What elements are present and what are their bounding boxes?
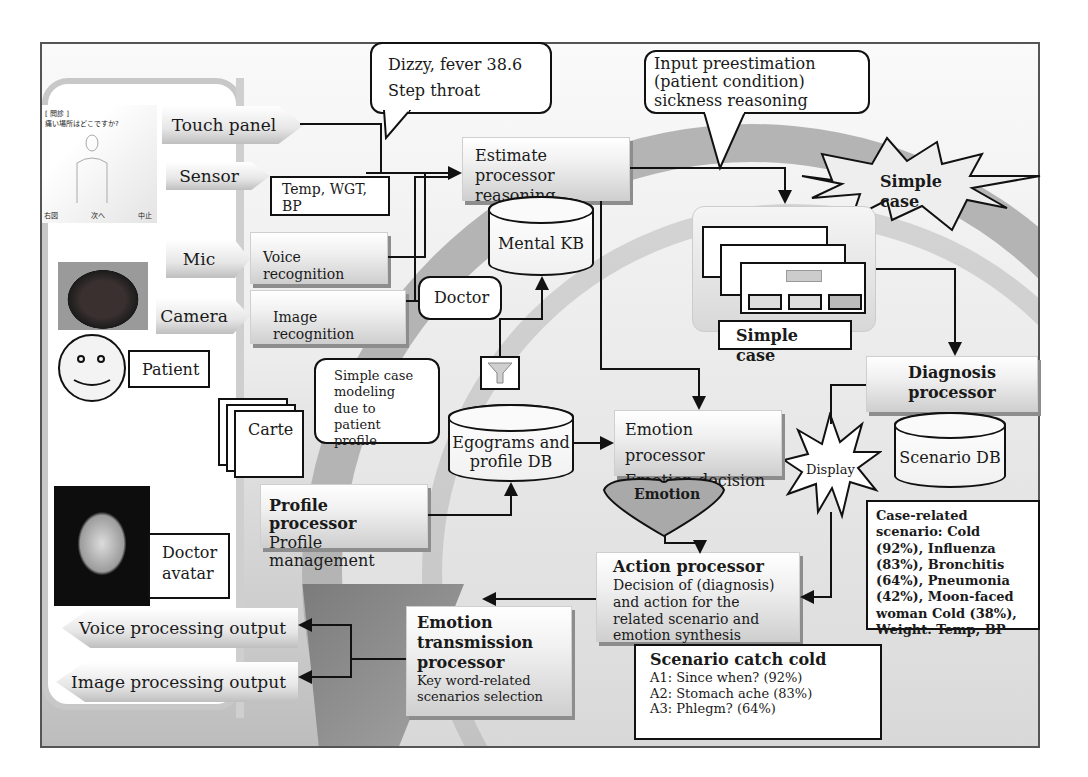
carte-label: Carte (234, 410, 304, 478)
arrow-head (600, 436, 614, 450)
mental-kb-database: Mental KB (488, 196, 594, 276)
connector (499, 318, 543, 320)
connector (380, 123, 382, 173)
scenario-item: A2: Stomach ache (83%) (650, 686, 866, 702)
connector (496, 598, 596, 600)
connector (876, 268, 956, 270)
funnel-icon (487, 361, 513, 385)
profile-processor: Profile processor Profile management (260, 484, 428, 548)
egograms-profile-database: Egograms and profile DB (448, 404, 574, 482)
arrow-head (298, 670, 312, 684)
connector (600, 201, 602, 369)
smiley-face-icon (56, 332, 128, 404)
connector (352, 658, 406, 660)
arrow-head (800, 590, 814, 604)
scenario-db-database: Scenario DB (894, 412, 1006, 488)
arrow-head (535, 276, 549, 290)
diagnosis-processor: Diagnosis processor (866, 356, 1038, 412)
arrow-head (298, 618, 312, 632)
connector (830, 512, 832, 598)
patient-photo (58, 262, 148, 330)
emotion-heart-label: Emotion (634, 486, 700, 503)
connector (312, 676, 352, 678)
arrow-head (692, 396, 706, 410)
voice-processing-output: Voice processing output (62, 608, 298, 648)
simple-case-label: Simple case (718, 320, 852, 350)
patient-label: Patient (128, 350, 210, 388)
sensor-readings-box: Temp, WGT, BP (270, 176, 390, 216)
touch-screen-question: 痛い場所はどこですか? (45, 118, 154, 128)
connector (428, 514, 512, 516)
symptom-bubble-tail (380, 110, 420, 140)
connector (574, 442, 602, 444)
arrow-head (778, 190, 792, 204)
touch-screen-button[interactable]: 右図 (44, 210, 58, 220)
emotion-processor: Emotion processor Emotion decision (614, 410, 782, 476)
connector (499, 318, 501, 358)
connector (784, 167, 786, 191)
preestimation-bubble-tail (700, 112, 770, 172)
doctor-avatar-photo (54, 486, 150, 606)
connector (312, 624, 352, 626)
doctor-bubble: Doctor (418, 276, 502, 320)
image-recognition: Image recognition (250, 290, 406, 344)
scenario-item: A1: Since when? (92%) (650, 670, 866, 686)
body-outline-icon (67, 133, 117, 203)
modeling-bubble: Simple case modeling due to patient prof… (314, 358, 440, 444)
action-processor: Action processor Decision of (diagnosis)… (596, 552, 800, 642)
case-card (740, 262, 866, 314)
estimate-processor: Estimate processor reasoning (462, 137, 630, 201)
connector (366, 172, 450, 174)
emotion-heart-icon (600, 474, 728, 540)
connector (350, 624, 352, 678)
case-related-scenario-box: Case-related scenario: Cold (92%), Influ… (866, 500, 1040, 630)
touch-screen-button[interactable]: 次へ (91, 210, 105, 220)
connector (414, 176, 450, 178)
scenario-catch-cold-box: Scenario catch cold A1: Since when? (92%… (634, 644, 882, 740)
connector (541, 290, 543, 320)
arrow-head (693, 540, 707, 554)
simple-case-burst-label: Simple case (880, 172, 950, 212)
connector (830, 384, 832, 424)
camera-input: Camera (156, 298, 250, 334)
doctor-avatar-label: Doctor avatar (148, 533, 230, 599)
connector (414, 176, 416, 302)
connector (698, 368, 700, 396)
connector (424, 172, 426, 258)
touch-screen-header: [ 問診 ] (45, 108, 154, 118)
image-processing-output: Image processing output (56, 662, 298, 702)
connector (630, 167, 786, 169)
connector (814, 596, 832, 598)
touch-screen-button[interactable]: 中止 (138, 210, 152, 220)
arrow-head (948, 342, 962, 356)
arrow-head (504, 482, 518, 496)
voice-recognition: Voice recognition (250, 232, 388, 284)
filter-box (480, 356, 520, 390)
arrow-head (448, 166, 462, 180)
connector (830, 384, 866, 386)
touch-panel-input: Touch panel (162, 106, 304, 144)
connector (600, 368, 700, 370)
connector (388, 256, 426, 258)
mic-input: Mic (166, 240, 250, 278)
preestimation-bubble: Input preestimation (patient condition) … (644, 50, 870, 114)
emotion-transmission-processor: Emotion transmission processor Key word-… (406, 606, 572, 716)
sensor-input: Sensor (166, 162, 270, 190)
touch-screen-thumbnail: [ 問診 ] 痛い場所はどこですか? 右図 次へ 中止 (42, 105, 157, 223)
scenario-item: A3: Phlegm? (64%) (650, 701, 866, 717)
connector (300, 123, 382, 125)
arrow-head (482, 592, 496, 606)
connector (954, 268, 956, 344)
symptom-bubble: Dizzy, fever 38.6 Step throat (370, 42, 552, 114)
connector (510, 496, 512, 516)
display-burst-label: Display (806, 462, 855, 478)
connector (406, 300, 418, 302)
